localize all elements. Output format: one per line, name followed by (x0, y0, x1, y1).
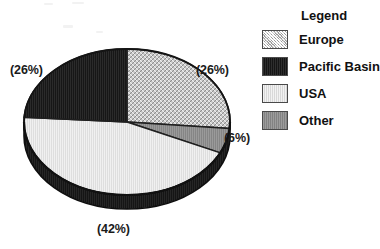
legend-title: Legend (301, 8, 374, 23)
pie-svg (0, 0, 260, 230)
legend-item-pacific-basin[interactable]: Pacific Basin (262, 56, 374, 76)
pie-slice-pacific-basin (24, 49, 127, 122)
legend-swatch-europe (262, 30, 288, 49)
slice-label-other: (6%) (224, 131, 250, 145)
legend-swatch-usa (262, 84, 288, 103)
legend-label-other: Other (299, 113, 334, 128)
legend-item-europe[interactable]: Europe (262, 29, 374, 49)
legend-swatch-pacific-basin (262, 57, 288, 76)
legend-label-pacific-basin: Pacific Basin (299, 59, 380, 74)
legend-item-usa[interactable]: USA (262, 83, 374, 103)
legend-swatch-other (262, 111, 288, 130)
pie-slice-europe (127, 49, 230, 129)
chart-legend: Legend Europe Pacific Basin USA Other (262, 8, 374, 137)
legend-label-europe: Europe (299, 32, 344, 47)
slice-label-europe: (26%) (196, 63, 229, 77)
pie-graphic (0, 0, 260, 230)
legend-item-other[interactable]: Other (262, 110, 374, 130)
slice-label-pacific-basin: (26%) (10, 63, 43, 77)
legend-label-usa: USA (299, 86, 326, 101)
slice-label-usa: (42%) (97, 222, 130, 236)
